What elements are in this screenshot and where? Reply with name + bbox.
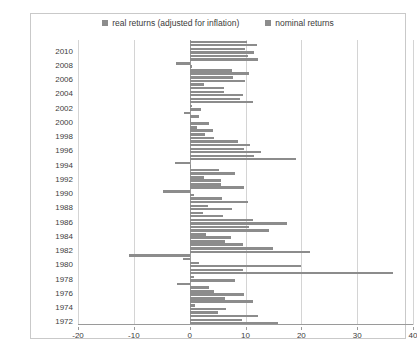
bar-real-return	[190, 119, 191, 122]
x-axis-tick	[78, 327, 79, 330]
bar-nominal-return	[190, 137, 214, 140]
x-axis-tick-label: 0	[187, 331, 191, 340]
bar-nominal-return	[190, 265, 302, 268]
year-row	[78, 175, 413, 182]
x-axis-tick-label: 10	[241, 331, 250, 340]
bar-real-return	[190, 311, 218, 314]
y-axis-tick-label: 1978	[55, 274, 73, 283]
bar-nominal-return	[190, 65, 193, 68]
bar-nominal-return	[190, 122, 210, 125]
bar-real-return	[190, 140, 238, 143]
bar-real-return	[175, 162, 190, 165]
year-row	[78, 76, 413, 83]
bar-real-return	[190, 276, 194, 279]
legend-item-real-returns: real returns (adjusted for inflation)	[102, 19, 239, 28]
year-row	[78, 282, 413, 289]
bar-nominal-return	[190, 186, 245, 189]
bar-nominal-return	[190, 165, 192, 168]
bar-rows	[78, 40, 413, 325]
bar-nominal-return	[190, 236, 231, 239]
y-axis-tick-label: 1990	[55, 189, 73, 198]
x-axis-labels: -20-10010203040	[78, 327, 413, 341]
bar-nominal-return	[190, 94, 244, 97]
y-axis-tick-label: 1984	[55, 231, 73, 240]
year-row	[78, 111, 413, 118]
y-axis-tick-label: 1972	[55, 317, 73, 326]
bar-real-return	[184, 112, 190, 115]
bar-nominal-return	[190, 129, 213, 132]
bar-real-return	[190, 83, 205, 86]
y-axis-tick-label: 1986	[55, 217, 73, 226]
year-row	[78, 61, 413, 68]
bar-nominal-return	[190, 108, 201, 111]
x-axis-tick	[301, 327, 302, 330]
y-axis-tick-label: 1974	[55, 303, 73, 312]
bar-nominal-return	[190, 115, 199, 118]
year-row	[78, 154, 413, 161]
bar-nominal-return	[190, 80, 246, 83]
bar-nominal-return	[190, 222, 288, 225]
year-row	[78, 240, 413, 247]
y-axis-tick-label: 2008	[55, 60, 73, 69]
bar-nominal-return	[190, 229, 270, 232]
year-row	[78, 90, 413, 97]
year-row	[78, 126, 413, 133]
year-row	[78, 133, 413, 140]
year-row	[78, 247, 413, 254]
year-row	[78, 225, 413, 232]
bar-nominal-return	[190, 158, 296, 161]
year-row	[78, 140, 413, 147]
year-row	[78, 261, 413, 268]
bar-real-return	[190, 233, 207, 236]
bar-real-return	[190, 212, 203, 215]
year-row	[78, 97, 413, 104]
bar-nominal-return	[190, 208, 232, 211]
bar-real-return	[190, 247, 274, 250]
year-row	[78, 289, 413, 296]
y-axis-tick-label: 2000	[55, 117, 73, 126]
bar-real-return	[190, 304, 196, 307]
y-axis-tick-label: 1982	[55, 246, 73, 255]
gridline	[413, 40, 414, 325]
bar-real-return	[190, 297, 225, 300]
year-row	[78, 69, 413, 76]
bar-real-return	[190, 269, 244, 272]
x-axis-tick	[134, 327, 135, 330]
year-row	[78, 268, 413, 275]
bar-nominal-return	[190, 144, 250, 147]
bar-real-return	[190, 148, 245, 151]
y-axis-tick-label: 1998	[55, 132, 73, 141]
legend-item-nominal-returns: nominal returns	[265, 19, 334, 28]
bar-real-return	[190, 91, 225, 94]
bar-nominal-return	[190, 308, 226, 311]
bar-nominal-return	[190, 279, 236, 282]
bar-real-return	[190, 205, 208, 208]
bar-real-return	[190, 126, 198, 129]
year-row	[78, 254, 413, 261]
bar-real-return	[190, 55, 249, 58]
bar-nominal-return	[190, 72, 250, 75]
bar-nominal-return	[190, 201, 249, 204]
x-axis-line	[78, 324, 413, 325]
bar-real-return	[190, 319, 242, 322]
bar-nominal-return	[190, 51, 254, 54]
year-row	[78, 304, 413, 311]
bar-nominal-return	[190, 172, 236, 175]
x-axis-tick	[413, 327, 414, 330]
year-row	[78, 118, 413, 125]
year-row	[78, 168, 413, 175]
bar-nominal-return	[190, 293, 245, 296]
bar-real-return	[190, 169, 219, 172]
bar-nominal-return	[183, 258, 190, 261]
bar-nominal-return	[190, 272, 394, 275]
y-axis-tick-label: 2010	[55, 46, 73, 55]
year-row	[78, 183, 413, 190]
legend-swatch-real-returns	[102, 20, 108, 26]
legend-swatch-nominal-returns	[265, 20, 271, 26]
bar-real-return	[190, 48, 246, 51]
chart-legend: real returns (adjusted for inflation) no…	[31, 16, 405, 30]
year-row	[78, 204, 413, 211]
bar-real-return	[163, 190, 190, 193]
bar-nominal-return	[190, 87, 224, 90]
